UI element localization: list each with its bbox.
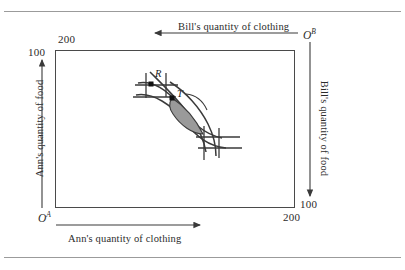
value-top-left-side: 100	[28, 46, 45, 58]
value-top-left-above: 200	[58, 33, 75, 45]
origin-bill-superscript: B	[311, 27, 316, 36]
axis-title-bottom: Ann's quantity of clothing	[68, 233, 181, 244]
figure-top-rule	[4, 11, 401, 12]
axis-title-left: Ann's quantity of food	[34, 69, 45, 189]
axis-title-right: Bill's quantity of food	[319, 69, 330, 189]
origin-ann-label: OA	[38, 210, 51, 224]
origin-bill-label: OB	[303, 27, 316, 41]
point-label-t: T	[177, 88, 183, 99]
point-label-r: R	[155, 68, 161, 79]
figure-bottom-rule	[4, 257, 401, 258]
edgeworth-box-rectangle	[55, 50, 295, 208]
value-bottom-right-side: 100	[300, 198, 317, 210]
origin-ann-superscript: A	[46, 210, 51, 219]
edgeworth-box-figure: 200 100 100 200 OA OB Ann's quantity of …	[0, 0, 405, 270]
axis-title-top: Bill's quantity of clothing	[178, 21, 289, 32]
value-bottom-right-below: 200	[283, 211, 300, 223]
